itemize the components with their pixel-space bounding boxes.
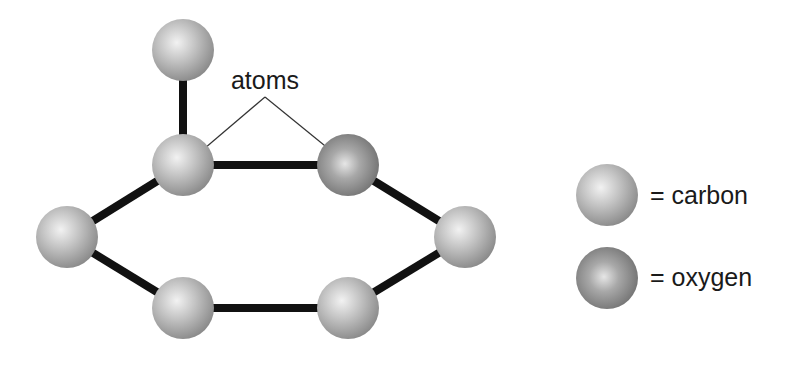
legend: = carbon = oxygen <box>576 164 752 309</box>
carbon-atom <box>434 206 496 268</box>
legend-item-oxygen: = oxygen <box>576 247 752 309</box>
carbon-atom <box>152 277 214 339</box>
carbon-atom <box>317 277 379 339</box>
carbon-sphere-icon <box>576 164 638 226</box>
atoms-label: atoms <box>231 66 299 94</box>
legend-label-carbon: = carbon <box>650 181 748 209</box>
carbon-atom <box>152 134 214 196</box>
oxygen-atom <box>317 134 379 196</box>
legend-label-oxygen: = oxygen <box>650 263 752 291</box>
oxygen-sphere-icon <box>576 247 638 309</box>
annotation-pointer <box>198 97 335 154</box>
carbon-atom <box>36 206 98 268</box>
legend-item-carbon: = carbon <box>576 164 748 226</box>
molecule-diagram: atoms = carbon = oxygen <box>0 0 802 371</box>
carbon-atom <box>152 19 214 81</box>
pointer-line-left <box>198 97 265 154</box>
